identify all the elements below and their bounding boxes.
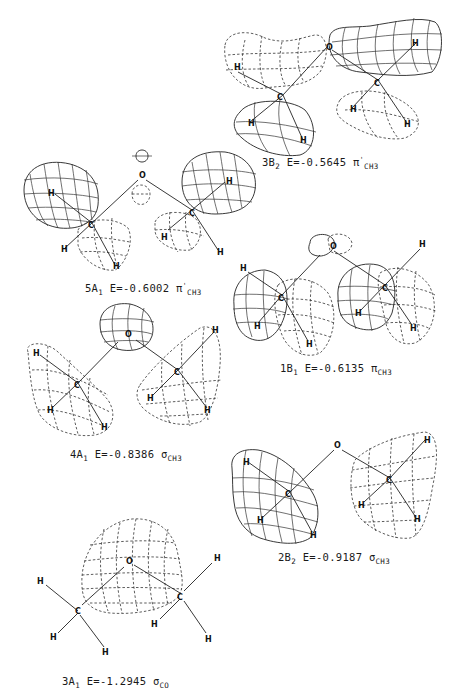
atom-h: H [240, 264, 247, 273]
atom-h: H [37, 577, 44, 586]
atom-h: H [310, 531, 317, 540]
atom-h: H [151, 620, 158, 629]
atom-o: O [139, 171, 146, 180]
orbital-label-5a1: 5A1 E=-0.6002 π'CH3 [85, 282, 202, 297]
atom-o: O [330, 242, 337, 251]
orbital-diagram-3a1: O C C H H H H H H [20, 515, 260, 700]
atom-h: H [404, 120, 411, 129]
atom-h: H [254, 322, 261, 331]
orbital-label-4a1: 4A1 E=-0.8386 σCH3 [70, 448, 182, 463]
atom-h: H [102, 648, 109, 657]
orbital-panel-3a1: O C C H H H H H H 3A1 E=-1.2945 σCO [20, 515, 260, 700]
atom-c: C [177, 593, 183, 602]
atom-h: H [113, 262, 120, 271]
atom-o: O [334, 441, 341, 450]
atom-h: H [410, 324, 417, 333]
atom-h: H [226, 177, 233, 186]
atom-h: H [424, 436, 431, 445]
atom-c: C [189, 209, 195, 218]
atom-h: H [204, 406, 211, 415]
atom-h: H [412, 39, 419, 48]
atom-h: H [306, 340, 313, 349]
atom-o: O [326, 43, 333, 52]
atom-h: H [212, 326, 219, 335]
atom-c: C [75, 607, 81, 616]
atom-h: H [48, 189, 55, 198]
atom-c: C [278, 294, 284, 303]
atom-h: H [214, 554, 221, 563]
orbital-panel-1b1: O C C H H H H H H 1B1 E=-0.6135 πCH3 [220, 225, 457, 380]
orbital-label-3b2: 3B2 E=-0.5645 π'CH3 [262, 156, 379, 171]
orbital-label-2b2: 2B2 E=-0.9187 σCH3 [278, 551, 390, 566]
atom-h: H [358, 501, 365, 510]
orbital-label-1b1: 1B1 E=-0.6135 πCH3 [280, 362, 392, 377]
atom-h: H [33, 349, 40, 358]
atom-c: C [174, 368, 180, 377]
atom-c: C [277, 93, 283, 102]
orbital-diagram-1b1: O C C H H H H H H [220, 225, 457, 380]
atom-c: C [382, 284, 388, 293]
atom-o: O [125, 330, 132, 339]
atom-h: H [47, 406, 54, 415]
atom-h: H [205, 635, 212, 644]
atom-h: H [243, 458, 250, 467]
atom-h: H [101, 423, 108, 432]
atom-h: H [419, 240, 426, 249]
atom-h: H [50, 633, 57, 642]
atom-h: H [300, 136, 307, 145]
orbital-label-3a1: 3A1 E=-1.2945 σCO [62, 675, 169, 690]
atom-h: H [414, 515, 421, 524]
atom-c: C [374, 79, 380, 88]
atom-o: O [126, 557, 133, 566]
atom-h: H [355, 309, 362, 318]
atom-c: C [285, 490, 291, 499]
atom-h: H [61, 245, 68, 254]
atom-h: H [147, 394, 154, 403]
atom-h: H [350, 105, 357, 114]
atom-c: C [386, 476, 392, 485]
atom-c: C [74, 381, 80, 390]
atom-c: C [88, 221, 94, 230]
atom-h: H [161, 233, 168, 242]
atom-h: H [234, 63, 241, 72]
